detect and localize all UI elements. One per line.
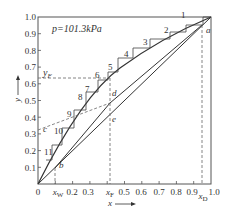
x-axis-label: x bbox=[107, 198, 112, 208]
x-tick-labels: 0 xW 0.2 0.3 xF 0.5 0.6 0.7 0.8 0.9 xD 1… bbox=[36, 187, 220, 203]
x-arrow-head-icon bbox=[131, 202, 136, 206]
svg-text:11: 11 bbox=[44, 147, 53, 157]
point-b: b bbox=[59, 160, 64, 170]
svg-text:xD: xD bbox=[197, 191, 207, 203]
svg-text:0.2: 0.2 bbox=[66, 187, 77, 197]
svg-text:0.1: 0.1 bbox=[25, 163, 36, 173]
stripping-line bbox=[55, 103, 110, 168]
diagonal-line bbox=[38, 17, 211, 184]
y-arrow-head-icon bbox=[16, 75, 20, 80]
point-e: e bbox=[112, 114, 116, 124]
svg-text:0.5: 0.5 bbox=[118, 187, 130, 197]
svg-text:0.6: 0.6 bbox=[135, 187, 147, 197]
mccabe-thiele-diagram: p=101.3kPa yF a b c d e 1 2 3 4 5 6 7 8 … bbox=[0, 0, 226, 214]
svg-text:7: 7 bbox=[85, 84, 90, 94]
svg-text:6: 6 bbox=[95, 70, 100, 80]
svg-text:2: 2 bbox=[164, 25, 169, 35]
svg-text:3: 3 bbox=[143, 37, 148, 47]
y-axis-label: y bbox=[12, 98, 22, 103]
svg-text:9: 9 bbox=[67, 109, 72, 119]
svg-text:0: 0 bbox=[36, 187, 41, 197]
svg-text:0.3: 0.3 bbox=[82, 187, 94, 197]
svg-text:0.9: 0.9 bbox=[25, 29, 37, 39]
svg-text:0.4: 0.4 bbox=[25, 113, 37, 123]
svg-text:0.2: 0.2 bbox=[25, 146, 36, 156]
point-a: a bbox=[206, 25, 211, 35]
svg-text:0.6: 0.6 bbox=[25, 79, 37, 89]
svg-text:0.7: 0.7 bbox=[25, 62, 37, 72]
svg-text:0.9: 0.9 bbox=[186, 187, 198, 197]
svg-text:xW: xW bbox=[52, 187, 64, 199]
svg-text:1: 1 bbox=[181, 10, 186, 20]
svg-text:0.3: 0.3 bbox=[25, 129, 37, 139]
point-d: d bbox=[112, 88, 117, 98]
svg-text:1.0: 1.0 bbox=[25, 12, 37, 22]
svg-text:5: 5 bbox=[108, 62, 113, 72]
rectifying-line bbox=[110, 25, 202, 103]
svg-text:1.0: 1.0 bbox=[208, 187, 220, 197]
svg-text:4: 4 bbox=[124, 49, 129, 59]
svg-text:0.5: 0.5 bbox=[25, 96, 37, 106]
point-c: c bbox=[43, 124, 47, 134]
svg-text:8: 8 bbox=[78, 92, 83, 102]
pressure-label: p=101.3kPa bbox=[51, 23, 102, 34]
svg-text:10: 10 bbox=[54, 126, 64, 136]
svg-text:0.8: 0.8 bbox=[170, 187, 182, 197]
svg-text:0.8: 0.8 bbox=[25, 46, 37, 56]
svg-text:0.7: 0.7 bbox=[153, 187, 165, 197]
y-tick-labels: 1.0 0.9 0.8 0.7 0.6 0.5 0.4 0.3 0.2 0.1 bbox=[25, 12, 37, 173]
